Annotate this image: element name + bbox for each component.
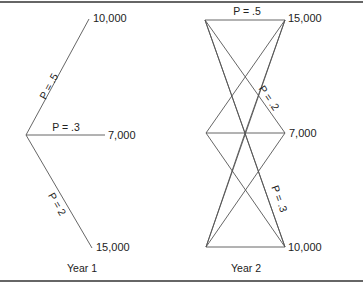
year1-branch-bot [26,135,92,248]
year1-value-mid: 7,000 [108,129,136,141]
year1-value-top: 10,000 [93,12,127,24]
year1-label: Year 1 [67,262,97,274]
year2-value-bot: 10,000 [288,241,322,253]
year1-prob-top: P = .5 [37,71,61,101]
year1-value-bot: 15,000 [96,241,130,253]
year1-prob-mid: P = .3 [52,121,80,133]
year1-tree: 10,000 7,000 15,000 P = .5 P = .3 P = 2 … [26,12,136,274]
year2-label: Year 2 [231,262,261,274]
year2-edge-tl-mc [205,20,245,133]
year2-edge-mc-tr [245,20,285,133]
probability-tree-diagram: 10,000 7,000 15,000 P = .5 P = .3 P = 2 … [0,0,363,283]
year2-prob-diag-b: P = .3 [269,184,290,214]
year2-tree: 15,000 7,000 10,000 P = .5 P = .2 P = .3… [205,5,322,274]
year2-prob-top-edge: P = .5 [233,5,261,17]
year2-value-top: 15,000 [288,12,322,24]
year2-value-mid: 7,000 [289,127,317,139]
year2-edge-bl-mc [206,133,245,247]
year1-prob-bot: P = 2 [46,190,69,217]
